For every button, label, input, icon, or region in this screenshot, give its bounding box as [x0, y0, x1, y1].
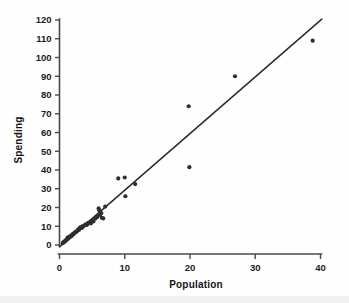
x-tick-label: 40 [315, 262, 326, 273]
page-edge-strip [0, 296, 349, 303]
x-tick-label: 20 [185, 262, 196, 273]
y-tick-label: 0 [46, 239, 51, 250]
data-point [116, 176, 120, 180]
y-tick-label: 70 [41, 108, 52, 119]
data-point [133, 182, 137, 186]
y-tick-label: 30 [41, 183, 52, 194]
x-tick-label: 30 [250, 262, 261, 273]
y-tick-label: 60 [41, 127, 52, 138]
x-axis-title: Population [169, 279, 223, 290]
data-point [99, 211, 103, 215]
data-point [103, 204, 107, 208]
x-tick-label: 0 [57, 262, 62, 273]
y-tick-label: 80 [41, 89, 52, 100]
y-tick-label: 20 [41, 202, 52, 213]
y-tick-label: 110 [36, 33, 51, 44]
y-tick-label: 10 [41, 221, 52, 232]
y-tick-label: 50 [41, 146, 52, 157]
data-point [123, 194, 127, 198]
y-tick-label: 40 [41, 164, 52, 175]
y-tick-label: 100 [36, 52, 52, 63]
plot-area: 0102030405060708090100110120 010203040 S… [0, 0, 349, 303]
chart-background [0, 0, 349, 303]
y-axis-title: Spending [13, 116, 24, 163]
x-tick-label: 10 [119, 262, 130, 273]
data-point [101, 216, 105, 220]
data-point [123, 175, 127, 179]
y-tick-label: 90 [41, 71, 52, 82]
y-tick-label: 120 [36, 14, 52, 25]
data-point [187, 165, 191, 169]
data-point [233, 74, 237, 78]
data-point [187, 104, 191, 108]
scatter-chart: 0102030405060708090100110120 010203040 S… [0, 0, 349, 303]
data-point [311, 39, 315, 43]
